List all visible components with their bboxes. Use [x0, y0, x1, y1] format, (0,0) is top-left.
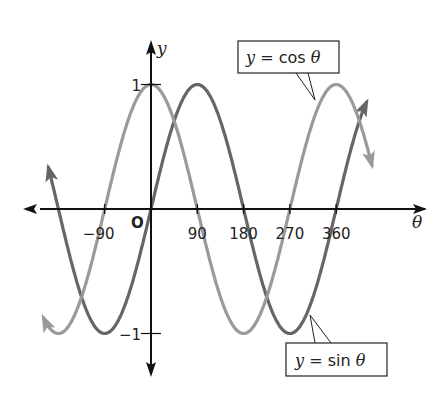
x-tick-label: 270	[276, 225, 305, 243]
trig-chart: y θ O −90901802703601−1 y = cos θ y = si…	[0, 0, 447, 413]
x-axis-left-arrow-icon	[23, 204, 37, 214]
x-tick-label: 360	[322, 225, 351, 243]
y-tick-label: −1	[119, 326, 141, 344]
sin-equation-label: y = sin θ	[294, 351, 366, 370]
y-tick-label: 1	[131, 77, 141, 95]
cos-equation-label: y = cos θ	[245, 48, 321, 67]
x-axis	[23, 204, 427, 214]
cos-callout: y = cos θ	[238, 41, 339, 100]
x-tick-label: 90	[188, 225, 207, 243]
y-axis-label: y	[156, 38, 167, 58]
x-tick-label: 180	[229, 225, 258, 243]
x-tick-label: −90	[83, 225, 115, 243]
origin-label: O	[131, 214, 144, 232]
x-axis-label: θ	[412, 212, 422, 232]
